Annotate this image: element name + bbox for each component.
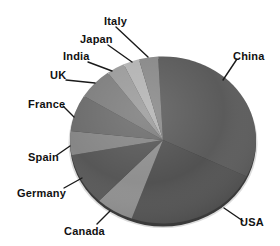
pie-label-germany: Germany <box>17 187 66 199</box>
pie-label-france: France <box>28 98 65 110</box>
leader-line-canada <box>97 211 110 224</box>
pie-label-japan: Japan <box>80 33 113 45</box>
pie-label-usa: USA <box>240 216 264 228</box>
pie-chart: ChinaUSACanadaGermanySpainFranceUKIndiaJ… <box>0 0 280 246</box>
pie-label-uk: UK <box>50 69 66 81</box>
leader-line-india <box>88 62 112 71</box>
pie-slices-group <box>70 56 256 223</box>
pie-label-india: India <box>63 50 90 62</box>
leader-line-china <box>223 59 237 80</box>
pie-label-spain: Spain <box>28 151 59 163</box>
pie-label-italy: Italy <box>104 15 127 27</box>
pie-canvas <box>0 0 280 246</box>
leader-line-uk <box>66 80 95 83</box>
leader-line-italy <box>116 27 148 57</box>
leader-line-japan <box>108 45 132 62</box>
leader-line-germany <box>64 178 82 188</box>
pie-label-china: China <box>233 50 265 62</box>
pie-label-canada: Canada <box>64 225 105 237</box>
